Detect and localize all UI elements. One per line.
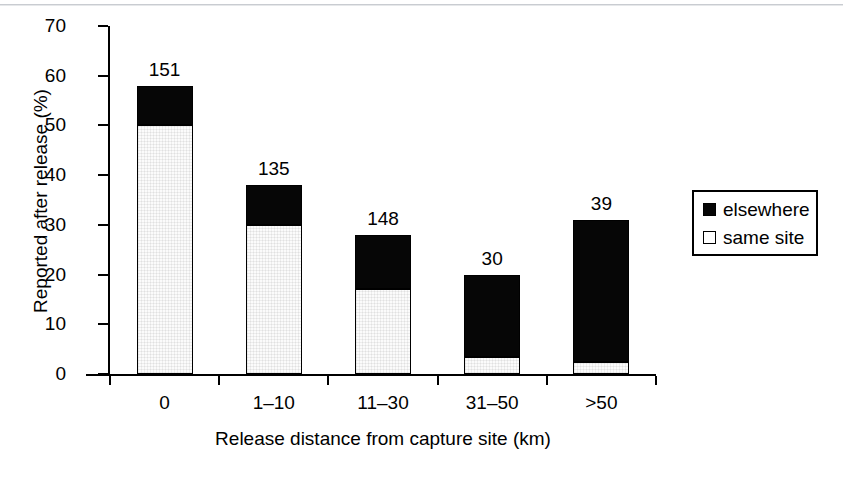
bar-segment-same-site: [246, 225, 302, 374]
bar-segment-same-site: [355, 289, 411, 374]
y-axis-tick-label: 70: [14, 16, 66, 35]
legend-swatch-elsewhere-icon: [703, 203, 716, 216]
chart-legend: elsewhere same site: [692, 190, 818, 256]
y-axis-tick-label: 0: [14, 364, 66, 383]
bar-segment-elsewhere: [573, 220, 629, 362]
y-axis-tick: [98, 124, 108, 126]
x-axis-tick-label: 1–10: [214, 392, 334, 414]
x-axis-tick: [437, 376, 439, 385]
bar-segment-elsewhere: [464, 275, 520, 357]
bar-5: [573, 220, 629, 374]
x-axis-line: [86, 374, 656, 376]
y-axis-tick: [98, 274, 108, 276]
y-axis-tick: [98, 75, 108, 77]
bar-value-label: 30: [442, 249, 542, 268]
legend-label-same-site: same site: [723, 228, 804, 247]
plot-area: 706050403020100 Reported after release (…: [0, 0, 843, 479]
chart-figure: 706050403020100 Reported after release (…: [0, 0, 843, 479]
bar-value-label: 148: [333, 209, 433, 228]
bar-segment-elsewhere: [246, 185, 302, 225]
bar-segment-same-site: [137, 125, 193, 374]
x-axis-tick-label: 31–50: [432, 392, 552, 414]
bar-segment-same-site: [573, 362, 629, 374]
y-axis-tick: [98, 25, 108, 27]
y-axis-title: Reported after release (%): [30, 51, 52, 351]
x-axis-tick: [218, 376, 220, 385]
bar-segment-elsewhere: [355, 235, 411, 290]
bar-3: [355, 235, 411, 374]
legend-label-elsewhere: elsewhere: [723, 200, 810, 219]
y-axis-line: [108, 26, 110, 376]
x-axis-tick: [546, 376, 548, 385]
bar-4: [464, 275, 520, 374]
bar-segment-elsewhere: [137, 86, 193, 126]
bar-1: [137, 86, 193, 374]
y-axis-tick: [98, 174, 108, 176]
x-axis-tick-label: >50: [541, 392, 661, 414]
x-axis-tick: [655, 376, 657, 385]
x-axis-tick-label: 11–30: [323, 392, 443, 414]
bar-value-label: 135: [224, 159, 324, 178]
legend-swatch-same-site-icon: [703, 231, 716, 244]
y-axis-tick: [98, 323, 108, 325]
bar-value-label: 151: [115, 60, 215, 79]
x-axis-tick: [327, 376, 329, 385]
legend-item-elsewhere: elsewhere: [703, 200, 810, 219]
legend-item-same-site: same site: [703, 228, 804, 247]
bar-value-label: 39: [551, 194, 651, 213]
bar-segment-same-site: [464, 357, 520, 374]
x-axis-tick: [109, 376, 111, 385]
y-axis-tick: [98, 224, 108, 226]
x-axis-tick-label: 0: [105, 392, 225, 414]
bar-2: [246, 185, 302, 374]
x-axis-title: Release distance from capture site (km): [110, 428, 656, 450]
